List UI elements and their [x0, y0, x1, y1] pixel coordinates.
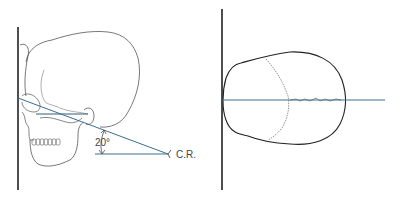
axial-view-panel: [222, 9, 385, 190]
diagram-canvas: 20° C.R.: [0, 0, 398, 201]
skull-zygoma: [40, 117, 82, 122]
skull-ear: [84, 108, 94, 125]
skull-inner-line: [41, 70, 88, 114]
skull-frontal-outline: [20, 44, 29, 96]
skull-teeth: [32, 139, 60, 145]
skull-maxilla: [22, 112, 34, 140]
central-ray-line: [18, 98, 168, 154]
angle-label: 20°: [95, 137, 110, 148]
central-ray-tail-icon: [168, 150, 171, 158]
skull-mandible: [30, 122, 84, 166]
skull-vertex-outline: [223, 52, 346, 144]
lateral-view-panel: 20° C.R.: [18, 27, 196, 190]
central-ray-label: C.R.: [176, 149, 196, 160]
